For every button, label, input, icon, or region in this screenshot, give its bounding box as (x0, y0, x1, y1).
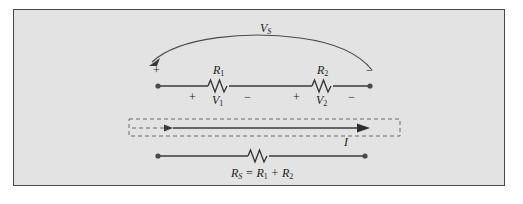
current-loop-dashed-box (129, 119, 400, 136)
current-label: I (344, 136, 348, 148)
voltage-v1-label: V1 (212, 94, 223, 108)
resistor-r1-symbol (208, 80, 227, 92)
equivalent-resistance-equation: RS = R1 + R2 (231, 167, 293, 181)
resistor-r1-label: R1 (213, 64, 224, 78)
resistor-r2-symbol (312, 80, 331, 92)
current-arrowhead (357, 124, 370, 133)
left-terminal-plus-sign: + (153, 64, 160, 76)
current-small-arrowhead (164, 125, 173, 132)
voltage-v2-label: V2 (316, 94, 327, 108)
right-terminal-minus-sign: − (366, 64, 373, 76)
resistor-r2-label: R2 (317, 64, 328, 78)
v2-plus-sign: + (293, 91, 300, 103)
source-voltage-arc (149, 35, 372, 70)
v1-minus-sign: − (244, 91, 251, 103)
source-branch-wire (155, 83, 372, 88)
source-voltage-label: VS (260, 22, 271, 36)
left-terminal-node (155, 83, 160, 88)
resistor-rs-symbol (248, 150, 267, 162)
right-terminal-node (367, 83, 372, 88)
v2-minus-sign: − (348, 91, 355, 103)
equivalent-left-node (155, 153, 160, 158)
equivalent-right-node (362, 153, 367, 158)
v1-plus-sign: + (189, 91, 196, 103)
